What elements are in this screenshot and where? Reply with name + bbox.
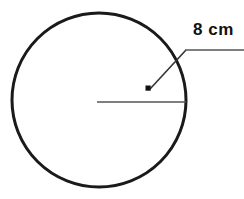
circle-diagram: 8 cm (0, 0, 244, 199)
radius-measurement-label: 8 cm (193, 21, 234, 38)
circle-outline (12, 13, 186, 187)
radius-endpoint-dot-icon (146, 86, 151, 91)
